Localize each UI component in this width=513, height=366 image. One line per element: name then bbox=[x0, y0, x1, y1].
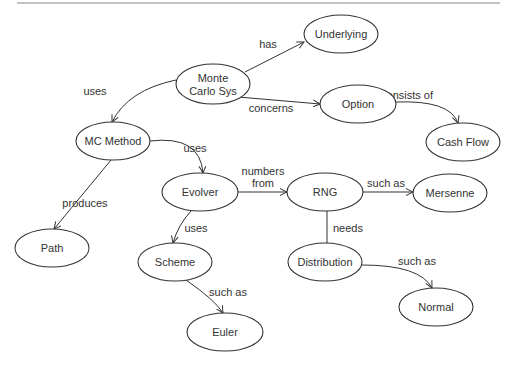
node-scheme: Scheme bbox=[138, 243, 212, 281]
node-euler: Euler bbox=[187, 313, 263, 351]
edge-montecarlo-to-underlying: has bbox=[245, 38, 304, 72]
edge-connector bbox=[112, 80, 176, 122]
edge-label: uses bbox=[184, 222, 208, 234]
node-mersenne: Mersenne bbox=[413, 174, 487, 212]
edge-label: has bbox=[259, 38, 277, 50]
edge-montecarlo-to-mcmethod: uses bbox=[83, 80, 176, 122]
edge-label: uses bbox=[83, 85, 107, 97]
edge-mcmethod-to-path: produces bbox=[54, 160, 111, 229]
edge-evolver-to-scheme: uses bbox=[173, 211, 208, 243]
node-label: MC Method bbox=[85, 135, 142, 147]
edge-label: numbersfrom bbox=[242, 165, 285, 189]
node-distribution: Distribution bbox=[288, 243, 362, 281]
edge-label: concerns bbox=[249, 102, 294, 114]
node-label: Option bbox=[342, 98, 374, 110]
edge-label: such as bbox=[367, 177, 405, 189]
node-montecarlo: MonteCarlo Sys bbox=[176, 64, 250, 104]
node-cashflow: Cash Flow bbox=[426, 123, 500, 161]
node-evolver: Evolver bbox=[162, 173, 238, 211]
edge-connector bbox=[396, 102, 458, 123]
concept-diagram: hasconcernsconsists ofusesusesproducesnu… bbox=[0, 0, 513, 366]
node-option: Option bbox=[320, 85, 396, 123]
node-underlying: Underlying bbox=[304, 15, 378, 53]
edge-connector bbox=[54, 160, 111, 229]
node-label: Evolver bbox=[182, 186, 219, 198]
edge-label: such as bbox=[398, 255, 436, 267]
edge-rng-to-mersenne: such as bbox=[363, 177, 413, 192]
node-label: Scheme bbox=[155, 256, 195, 268]
node-label: Cash Flow bbox=[437, 136, 489, 148]
node-label: Normal bbox=[418, 301, 453, 313]
edge-montecarlo-to-option: concerns bbox=[238, 97, 320, 114]
node-label: RNG bbox=[313, 186, 337, 198]
node-path: Path bbox=[15, 229, 89, 267]
node-label: Euler bbox=[212, 326, 238, 338]
node-label: Path bbox=[41, 242, 64, 254]
edge-distribution-to-normal: such as bbox=[362, 255, 436, 288]
node-label: Underlying bbox=[315, 28, 368, 40]
edges-layer: hasconcernsconsists ofusesusesproducesnu… bbox=[54, 38, 458, 313]
node-rng: RNG bbox=[287, 173, 363, 211]
edge-connector bbox=[362, 265, 432, 288]
edge-rng-to-distribution: needs bbox=[327, 211, 363, 243]
edge-label: needs bbox=[333, 222, 363, 234]
node-label: Mersenne bbox=[426, 187, 475, 199]
node-normal: Normal bbox=[399, 288, 473, 326]
edge-label: such as bbox=[209, 286, 247, 298]
edge-label: uses bbox=[183, 142, 207, 154]
edge-scheme-to-euler: such as bbox=[186, 280, 247, 313]
edge-mcmethod-to-evolver: uses bbox=[150, 140, 207, 173]
node-label: Distribution bbox=[297, 256, 352, 268]
node-mcmethod: MC Method bbox=[76, 122, 150, 160]
edge-evolver-to-rng: numbersfrom bbox=[238, 165, 287, 192]
edge-label: produces bbox=[62, 197, 108, 209]
